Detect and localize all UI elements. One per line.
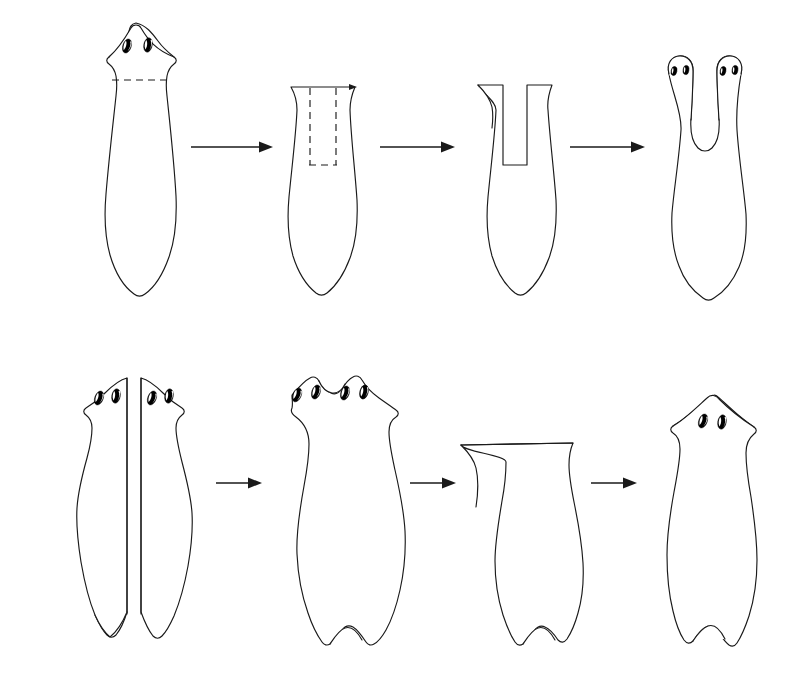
step-single-head-regenerate	[667, 395, 757, 646]
worm-body-outline	[461, 443, 583, 645]
head-apex-curve	[109, 25, 174, 57]
worm-body-outline	[667, 395, 757, 646]
worm-body-outline	[288, 87, 357, 295]
arrow-bottom-2	[410, 478, 456, 489]
step-two-longitudinal-halves	[77, 378, 193, 638]
worm-half-right-outline	[141, 378, 192, 638]
step-body-with-median-slit	[478, 85, 556, 295]
step-fused-double-worm	[290, 376, 405, 645]
diagram-canvas	[0, 0, 805, 680]
planarian-regeneration-figure	[0, 0, 805, 680]
head-apex-curve	[673, 395, 754, 427]
arrow-top-2	[380, 142, 455, 153]
worm-body-outline	[105, 23, 176, 296]
step-decapitated-fused-body	[461, 443, 583, 645]
step-two-headed-regenerate	[668, 56, 746, 300]
step-decapitated-body-with-cut-plan	[288, 84, 357, 295]
arrow-top-1	[191, 142, 273, 153]
arrow-top-3	[570, 142, 645, 153]
worm-body-outline	[291, 376, 405, 645]
left-flank-curve	[461, 445, 478, 507]
arrow-bottom-1	[216, 478, 262, 489]
row-top	[105, 23, 746, 300]
worm-half-left-outline	[77, 378, 127, 637]
step-intact-planarian	[105, 23, 176, 296]
row-bottom	[77, 376, 757, 646]
arrow-bottom-3	[591, 478, 637, 489]
